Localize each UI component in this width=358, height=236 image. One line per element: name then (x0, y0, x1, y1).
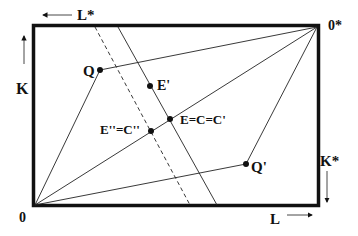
label-E-prime: E' (157, 78, 170, 93)
ray-foreign-origin-to-Q-prime (246, 27, 317, 164)
point-E-double-prime (148, 128, 154, 134)
ray-foreign-origin-to-Q (100, 27, 317, 70)
label-origin-foreign: 0* (328, 18, 342, 33)
label-L: L (270, 211, 280, 227)
label-Q: Q (83, 63, 95, 79)
label-K: K (16, 80, 29, 97)
label-origin-home: 0 (19, 210, 26, 225)
point-E-prime (147, 83, 153, 89)
label-L-star: L* (77, 7, 95, 23)
label-K-star: K* (320, 153, 339, 169)
point-E-main (167, 116, 173, 122)
label-E-double-prime: E''=C'' (100, 122, 140, 137)
label-E-main: E=C=C' (180, 112, 226, 127)
edgeworth-box-diagram: Q Q' E' E=C=C' E''=C'' 0 0* L* K K* L (0, 0, 358, 236)
point-Q (97, 67, 103, 73)
label-Q-prime: Q' (251, 159, 267, 175)
point-Q-prime (243, 161, 249, 167)
